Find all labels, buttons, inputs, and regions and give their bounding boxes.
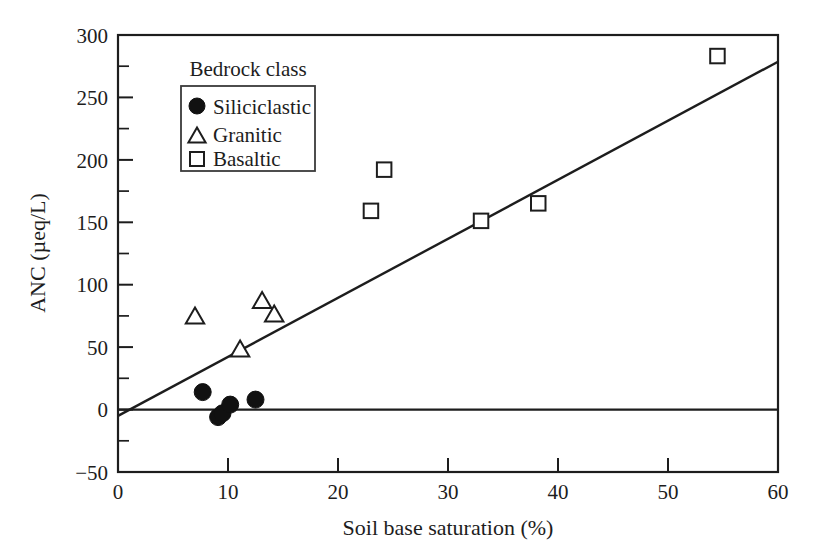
scatter-plot-figure: 300 250 200 150 100 50 0 −50 0 10 20 30 … — [0, 0, 825, 552]
data-point-siliciclastic — [247, 391, 264, 408]
data-point-basaltic — [474, 214, 489, 229]
data-point-basaltic — [710, 49, 725, 64]
data-point-siliciclastic — [194, 384, 211, 401]
data-point-basaltic — [364, 204, 379, 219]
y-axis-title: ANC (µeq/L) — [25, 193, 50, 313]
x-tick-label-50: 50 — [658, 480, 679, 504]
legend-marker-open-square-icon — [190, 152, 204, 166]
legend-item-label-granitic: Granitic — [213, 123, 282, 147]
x-tick-label-30: 30 — [438, 480, 459, 504]
x-tick-label-40: 40 — [548, 480, 569, 504]
y-tick-label-200: 200 — [77, 149, 109, 173]
data-point-basaltic — [377, 162, 392, 177]
y-tick-label-300: 300 — [77, 24, 109, 48]
legend-item-label-siliciclastic: Siliciclastic — [213, 95, 311, 119]
x-tick-label-10: 10 — [218, 480, 239, 504]
x-tick-label-20: 20 — [328, 480, 349, 504]
x-tick-label-0: 0 — [113, 480, 124, 504]
y-tick-label-50: 50 — [87, 336, 108, 360]
series-granitic — [186, 292, 284, 357]
y-axis-minor-ticks — [118, 66, 129, 441]
x-tick-label-60: 60 — [768, 480, 789, 504]
data-point-granitic — [253, 292, 271, 308]
y-tick-label-minus50: −50 — [75, 461, 108, 485]
y-tick-label-100: 100 — [77, 273, 109, 297]
series-basaltic — [364, 49, 725, 228]
data-point-basaltic — [531, 196, 546, 211]
legend-item-label-basaltic: Basaltic — [213, 147, 281, 171]
y-tick-label-0: 0 — [98, 398, 109, 422]
series-siliciclastic — [194, 384, 264, 426]
data-point-siliciclastic — [222, 396, 239, 413]
legend-marker-open-triangle-icon — [188, 128, 205, 143]
data-point-granitic — [231, 341, 249, 357]
x-axis-major-ticks — [228, 458, 668, 472]
data-point-granitic — [186, 308, 204, 324]
y-tick-label-150: 150 — [77, 211, 109, 235]
legend-marker-filled-circle-icon — [189, 98, 205, 114]
y-tick-label-250: 250 — [77, 86, 109, 110]
plot-canvas: 300 250 200 150 100 50 0 −50 0 10 20 30 … — [0, 0, 825, 552]
x-axis-title: Soil base saturation (%) — [343, 515, 554, 540]
legend: Bedrock class Siliciclastic Granitic Bas… — [181, 57, 315, 171]
legend-title: Bedrock class — [189, 57, 306, 81]
